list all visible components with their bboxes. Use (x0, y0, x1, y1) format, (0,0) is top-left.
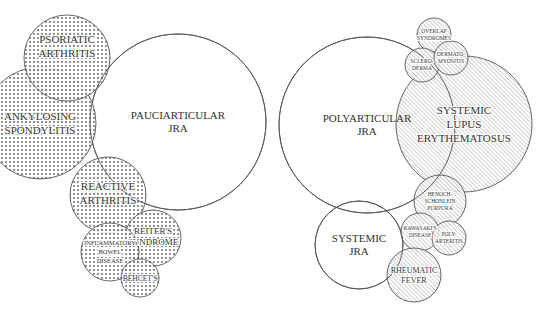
label-line: DISEASE (97, 257, 124, 264)
label-line: INFLAMMATORY (84, 239, 136, 246)
label-line: JRA (357, 125, 377, 137)
label-pauci: PAUCIARTICULARJRA (131, 109, 226, 134)
label-line: RHEUMATIC (391, 266, 438, 275)
label-line: PSORIATIC (39, 33, 95, 45)
label-line: SCHONLEIN (424, 198, 455, 204)
label-line: PURPURA (427, 205, 452, 211)
label-line: SYNDROMES (417, 35, 451, 41)
label-systemic-jra: SYSTEMICJRA (332, 232, 386, 257)
label-line: ARTHRITIS (39, 47, 96, 59)
label-line: PAUCIARTICULAR (131, 109, 226, 121)
label-line: POLY- (441, 231, 456, 237)
label-line: MYOSITIS (438, 58, 464, 64)
label-line: SYSTEMIC (437, 104, 491, 116)
label-line: FEVER (401, 276, 427, 285)
label-line: DERMA (412, 65, 432, 71)
label-line: LUPUS (447, 118, 482, 130)
label-line: BEHCET'S (123, 274, 158, 283)
label-line: ARTHRITIS (80, 194, 137, 206)
label-line: JRA (168, 122, 188, 134)
label-behcets: BEHCET'S (123, 274, 158, 283)
label-line: ARTERITIS (435, 238, 463, 244)
label-sclero: SCLERO-DERMA (411, 58, 434, 71)
label-line: OVERLAP (421, 28, 446, 34)
label-line: DISEASE (409, 232, 432, 238)
label-line: DERMATO- (437, 51, 465, 57)
label-line: BOWEL (98, 248, 121, 255)
disease-overlap-diagram: PAUCIARTICULARJRAPOLYARTICULARJRASYSTEMI… (0, 0, 539, 315)
label-line: ANKYLOSING (4, 110, 76, 122)
label-line: SPONDYLITIS (5, 124, 76, 136)
label-hsp: HENOCH-SCHONLEINPURPURA (424, 191, 455, 211)
label-line: ERYTHEMATOSUS (417, 132, 511, 144)
label-line: POLYARTICULAR (323, 112, 412, 124)
label-line: SCLERO- (411, 58, 434, 64)
label-line: JRA (349, 245, 369, 257)
label-line: REITER'S (134, 226, 172, 236)
label-overlap: OVERLAPSYNDROMES (417, 28, 451, 41)
label-line: KAWASAKI'S (404, 225, 437, 231)
label-line: REACTIVE (81, 180, 136, 192)
label-dermato: DERMATO-MYOSITIS (437, 51, 465, 64)
label-line: HENOCH- (428, 191, 453, 197)
label-line: SYSTEMIC (332, 232, 386, 244)
